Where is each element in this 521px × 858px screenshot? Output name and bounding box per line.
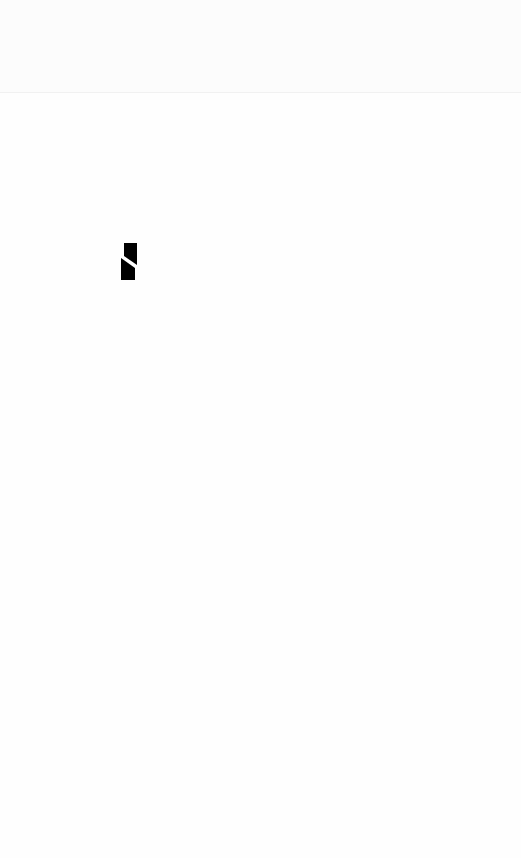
header-bar (0, 0, 521, 93)
blank-page (0, 0, 521, 858)
content-area (0, 93, 521, 858)
brand-logo-icon (121, 243, 137, 280)
